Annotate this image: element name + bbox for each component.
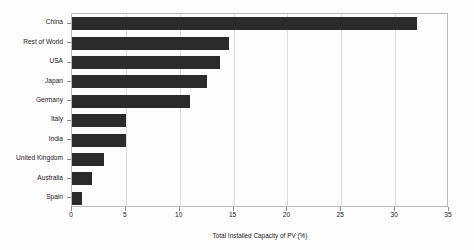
y-axis-label-text: China	[46, 19, 67, 26]
y-tick-mark	[67, 100, 71, 101]
y-tick-mark	[67, 42, 71, 43]
y-axis-label: United Kingdom	[0, 149, 67, 168]
y-axis-category-labels: ChinaRest of WorldUSAJapanGermanyItalyIn…	[0, 13, 474, 207]
x-tick-label: 15	[229, 212, 236, 219]
y-axis-label: India	[0, 129, 67, 148]
y-tick-mark	[67, 23, 71, 24]
y-axis-label-text: Spain	[46, 194, 67, 201]
y-tick-mark	[67, 139, 71, 140]
y-axis-label: Japan	[0, 71, 67, 90]
y-axis-label: Germany	[0, 91, 67, 110]
y-axis-label-text: United Kingdom	[16, 155, 67, 162]
x-axis-title: Total Installed Capacity of PV (%)	[0, 232, 474, 239]
x-tick-label: 30	[390, 212, 397, 219]
x-tick-label: 35	[444, 212, 451, 219]
y-axis-label: Italy	[0, 110, 67, 129]
y-tick-mark	[67, 120, 71, 121]
y-axis-label: Rest of World	[0, 32, 67, 51]
y-axis-label-text: Australia	[37, 175, 67, 182]
y-tick-mark	[67, 81, 71, 82]
y-axis-label-text: USA	[49, 58, 67, 65]
y-tick-mark	[67, 62, 71, 63]
y-tick-mark	[67, 178, 71, 179]
y-axis-label-text: Rest of World	[23, 39, 67, 46]
y-axis-label-text: Italy	[51, 116, 67, 123]
y-tick-mark	[67, 159, 71, 160]
x-tick-label: 10	[175, 212, 182, 219]
y-axis-label: China	[0, 13, 67, 32]
y-axis-label: Spain	[0, 188, 67, 207]
bar-chart: ChinaRest of WorldUSAJapanGermanyItalyIn…	[0, 0, 474, 250]
x-tick-label: 20	[283, 212, 290, 219]
x-tick-label: 0	[69, 212, 73, 219]
y-tick-mark	[67, 197, 71, 198]
y-axis-label-text: Japan	[45, 78, 67, 85]
x-axis-title-text: Total Installed Capacity of PV (%)	[167, 232, 308, 239]
y-axis-label-text: India	[49, 136, 67, 143]
y-axis-label-text: Germany	[36, 97, 67, 104]
x-tick-label: 5	[123, 212, 127, 219]
x-tick-label: 25	[337, 212, 344, 219]
y-axis-label: USA	[0, 52, 67, 71]
y-axis-label: Australia	[0, 168, 67, 187]
